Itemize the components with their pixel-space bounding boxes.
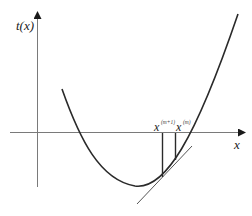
point-label-x-m-base: x bbox=[175, 120, 182, 134]
y-axis-label: t(x) bbox=[16, 18, 34, 33]
point-label-x-m-superscript: (m) bbox=[183, 119, 191, 126]
tangent-line bbox=[137, 146, 192, 204]
x-axis-label: x bbox=[233, 137, 240, 152]
function-diagram: t(x) x x (m+1) x (m) bbox=[0, 0, 252, 216]
function-curve bbox=[62, 14, 238, 186]
point-label-x-m-plus-1-superscript: (m+1) bbox=[161, 119, 175, 126]
point-label-x-m-plus-1-base: x bbox=[153, 120, 160, 134]
